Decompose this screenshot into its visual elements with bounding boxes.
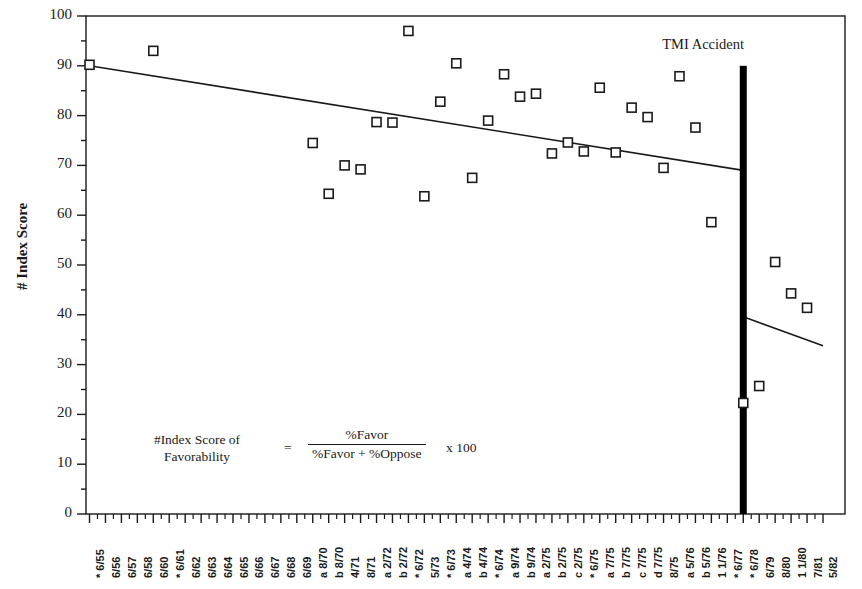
formula-numerator: %Favor [308,427,426,444]
x-tick-label: 6/79 [764,557,776,578]
chart-container: # Index Score 0102030405060708090100 * 6… [0,0,862,589]
x-tick-label: 8/71 [365,557,377,578]
y-tick-label: 50 [28,255,72,272]
formula-equals-sign: = [284,440,292,456]
x-tick-label: * 6/77 [732,549,744,578]
x-tick-label: 5/82 [827,557,839,578]
tmi-accident-label: TMI Accident [662,36,744,53]
x-tick-label: 6/58 [142,557,154,578]
x-tick-label: b 7/75 [620,547,632,578]
formula-lhs-line1: #Index Score of [154,432,240,447]
formula-denominator: %Favor + %Oppose [308,444,426,462]
x-tick-label: a 9/74 [509,547,521,578]
x-tick-label: 6/69 [301,557,313,578]
y-tick-label: 0 [28,504,72,521]
x-tick-label: 8/80 [780,557,792,578]
y-tick-label: 60 [28,205,72,222]
y-tick-label: 70 [28,155,72,172]
x-tick-label: 6/57 [126,557,138,578]
x-tick-label: 6/64 [222,557,234,578]
formula-lhs-line2: Favorability [164,449,230,464]
x-tick-label: 6/56 [110,557,122,578]
tmi-accident-bar [740,66,747,514]
x-tick-label: * 6/61 [174,549,186,578]
formula-left-side: #Index Score of Favorability [122,432,272,466]
x-tick-label: b 2/75 [556,547,568,578]
x-tick-label: 6/63 [206,557,218,578]
x-tick-label: b 2/72 [397,547,409,578]
x-tick-label: 6/65 [238,557,250,578]
x-tick-label: * 6/78 [748,549,760,578]
y-tick-label: 40 [28,305,72,322]
y-tick-label: 90 [28,56,72,73]
y-tick-label: 80 [28,106,72,123]
x-tick-label: * 6/72 [413,549,425,578]
x-tick-label: 6/67 [269,557,281,578]
x-tick-label: 6/62 [190,557,202,578]
data-point-markers [85,26,812,407]
x-tick-label: a 8/70 [317,547,329,578]
x-tick-label: * 6/75 [588,549,600,578]
x-tick-label: 1 1/80 [796,547,808,578]
x-tick-label: b 9/74 [525,547,537,578]
y-tick-label: 10 [28,454,72,471]
formula-multiplier: x 100 [446,440,476,456]
x-tick-label: d 7/75 [652,547,664,578]
y-tick-label: 20 [28,404,72,421]
x-axis-ticks [90,514,823,523]
x-tick-label: 8/75 [668,557,680,578]
x-tick-label: a 7/75 [604,547,616,578]
trend-lines [90,66,823,346]
x-tick-label: b 8/70 [333,547,345,578]
formula-fraction: %Favor %Favor + %Oppose [308,427,426,462]
x-tick-label: a 2/75 [540,547,552,578]
x-tick-label: 6/60 [158,557,170,578]
x-tick-label: * 6/74 [493,549,505,578]
x-tick-label: a 2/72 [381,547,393,578]
x-tick-label: a 4/74 [461,547,473,578]
chart-plot-svg [0,0,862,589]
x-tick-label: * 6/73 [445,549,457,578]
x-tick-label: 6/68 [285,557,297,578]
y-tick-label: 100 [28,6,72,23]
x-tick-label: 1 1/76 [716,547,728,578]
x-tick-label: 7/81 [812,557,824,578]
x-tick-label: b 5/76 [700,547,712,578]
x-tick-label: b 4/74 [477,547,489,578]
x-tick-label: c 7/75 [636,547,648,578]
x-tick-label: * 6/55 [94,549,106,578]
x-tick-label: 5/73 [429,557,441,578]
x-tick-label: 6/66 [253,557,265,578]
y-axis-ticks [77,16,86,514]
x-tick-label: c 2/75 [572,547,584,578]
x-tick-label: 4/71 [349,557,361,578]
y-tick-label: 30 [28,355,72,372]
x-tick-label: a 5/76 [684,547,696,578]
